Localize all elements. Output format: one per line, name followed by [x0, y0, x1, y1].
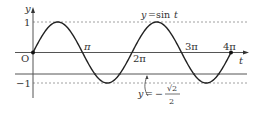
y-tick-1: 1 — [24, 17, 30, 28]
x-tick-3pi: 3π — [185, 41, 198, 52]
svg-text:y: y — [140, 9, 147, 20]
y-axis-label: y — [24, 3, 31, 14]
curve-equation-label: y = sin t — [140, 9, 178, 20]
svg-text:−: − — [155, 88, 163, 99]
t-axis-arrow-icon — [243, 51, 249, 55]
svg-text:sin: sin — [156, 9, 170, 20]
t-axis-label: t — [239, 55, 244, 66]
x-tick-pi: π — [83, 41, 91, 52]
line-equation-label: y = − √2 2 — [137, 75, 180, 106]
svg-text:t: t — [174, 9, 178, 20]
svg-text:y: y — [137, 88, 144, 99]
x-tick-2pi: 2π — [133, 53, 146, 64]
y-tick-minus-1: −1 — [16, 78, 31, 89]
start-dot — [31, 51, 35, 55]
svg-text:=: = — [148, 9, 156, 20]
svg-text:=: = — [145, 88, 153, 99]
svg-text:2: 2 — [169, 97, 174, 106]
sine-chart: y 1 O −1 π 2π 3π 4π t y = sin t y = − √2… — [0, 0, 261, 118]
svg-text:√2: √2 — [167, 84, 177, 93]
x-tick-4pi: 4π — [223, 41, 236, 52]
origin-label: O — [21, 53, 29, 64]
y-axis-arrow-icon — [31, 7, 35, 13]
